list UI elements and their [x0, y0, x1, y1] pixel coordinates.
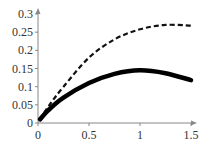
- y-tick-label: 0.15: [12, 62, 33, 76]
- series-group: [40, 25, 191, 120]
- series-line-solid: [40, 70, 191, 119]
- y-tick-label: 0.1: [18, 80, 33, 94]
- y-tick-label: 0.2: [18, 43, 33, 57]
- x-tick-label: 0: [35, 128, 41, 142]
- line-chart: 00.050.10.150.20.250.3 00.511.5: [0, 0, 215, 151]
- y-axis-ticks: 00.050.10.150.20.250.3: [12, 7, 38, 130]
- x-axis-arrow-icon: [191, 121, 197, 126]
- y-tick-label: 0.25: [12, 25, 33, 39]
- y-tick-label: 0.05: [12, 98, 33, 112]
- y-tick-label: 0: [27, 116, 33, 130]
- x-tick-label: 1: [137, 128, 143, 142]
- y-tick-label: 0.3: [18, 7, 33, 21]
- y-axis-arrow-icon: [36, 8, 41, 14]
- x-tick-label: 1.5: [184, 128, 199, 142]
- x-tick-label: 0.5: [82, 128, 97, 142]
- x-axis-ticks: 00.511.5: [35, 123, 199, 142]
